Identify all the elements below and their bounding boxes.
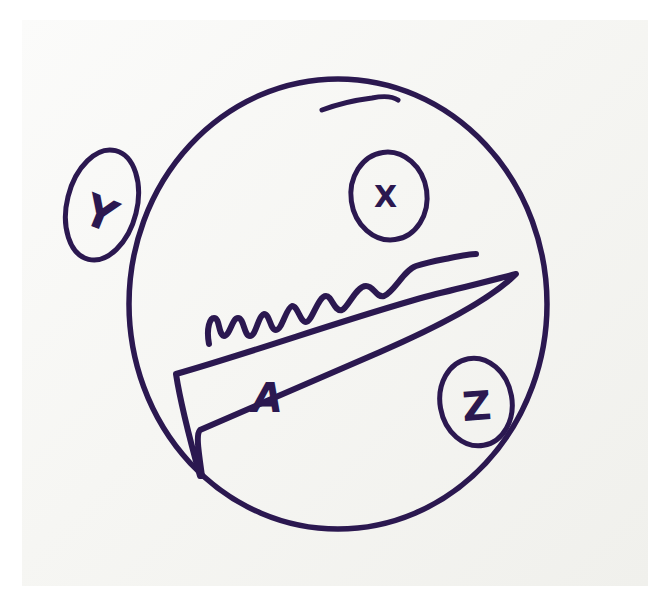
sketch-diagram: Y X Z A <box>0 0 671 610</box>
circle-closing-stroke <box>322 97 398 110</box>
label-z: Z <box>461 382 493 430</box>
wavy-line <box>208 254 476 344</box>
main-circle <box>129 79 547 529</box>
label-a: A <box>249 375 283 421</box>
label-y: Y <box>76 183 127 243</box>
label-x: X <box>374 179 397 214</box>
